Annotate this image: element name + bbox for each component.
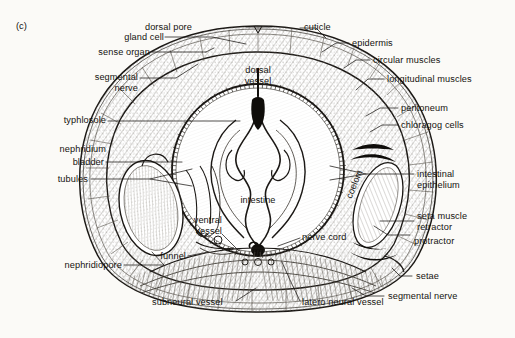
label-nerve-cord: nerve cord [302, 232, 376, 243]
label-ventral-vessel-line1: ventral [168, 215, 222, 226]
label-subneural-vessel: subneural vessel [152, 297, 250, 308]
label-nephridium: nephridium [18, 144, 106, 155]
label-segmental-nerve-left-line1: segmental [52, 72, 138, 83]
label-bladder: bladder [30, 157, 104, 168]
label-chloragog-cells: chloragog cells [401, 120, 501, 131]
label-setae: setae [416, 271, 466, 282]
label-gland-cell: gland cell [80, 32, 164, 43]
label-protractor: protractor [414, 236, 486, 247]
label-peritoneum: peritoneum [401, 103, 481, 114]
label-segmental-nerve-left-line2: nerve [52, 83, 138, 94]
label-sense-organ: sense organ [62, 47, 150, 58]
label-longitudinal-muscles: longitudinal muscles [387, 74, 515, 85]
label-intestine: intestine [228, 195, 288, 206]
label-dorsal-vessel-line2: vessel [228, 76, 288, 87]
panel-identifier: (c) [16, 20, 27, 31]
label-circular-muscles: circular muscles [373, 55, 477, 66]
label-dorsal-pore: dorsal pore [100, 22, 192, 33]
label-dorsal-vessel-line1: dorsal [228, 65, 288, 76]
label-epidermis: epidermis [352, 38, 422, 49]
label-typhlosole: typhlosole [22, 115, 106, 126]
label-funnel: funnel [142, 251, 186, 262]
label-intestinal-epithelium-line2: epithelium [417, 180, 491, 191]
figure-canvas: (c) dorsal pore gland cell sense organ s… [0, 0, 515, 338]
label-tubules: tubules [24, 174, 88, 185]
label-nephridiopore: nephridiopore [18, 260, 122, 271]
label-intestinal-epithelium-line1: intestinal [417, 169, 487, 180]
label-seta-muscle-line1: seta muscle [417, 211, 501, 222]
label-seta-muscle-retractor: retractor [417, 222, 487, 233]
label-ventral-vessel-line2: vessel [168, 226, 222, 237]
label-cuticle: cuticle [304, 22, 364, 33]
label-segmental-nerve-right: segmental nerve [388, 291, 498, 302]
